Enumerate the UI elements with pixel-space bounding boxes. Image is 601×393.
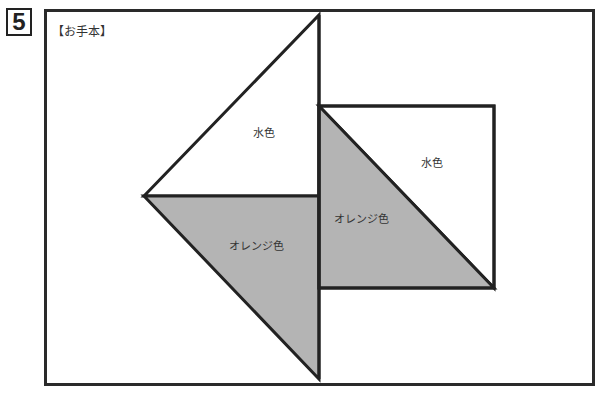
tangram-figure: [0, 0, 601, 393]
label-square-lower: オレンジ色: [334, 210, 389, 226]
label-lower-left: オレンジ色: [229, 237, 284, 253]
label-upper-left: 水色: [253, 124, 275, 140]
label-square-upper: 水色: [421, 154, 443, 170]
upper-left-triangle: [144, 15, 319, 196]
lower-left-triangle: [144, 196, 319, 379]
